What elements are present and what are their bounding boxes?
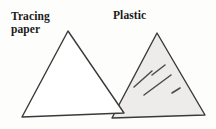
label-plastic: Plastic [113,9,183,22]
label-tracing-paper: Tracing paper [11,10,81,35]
figure-container: Tracing paper Plastic [0,0,216,129]
